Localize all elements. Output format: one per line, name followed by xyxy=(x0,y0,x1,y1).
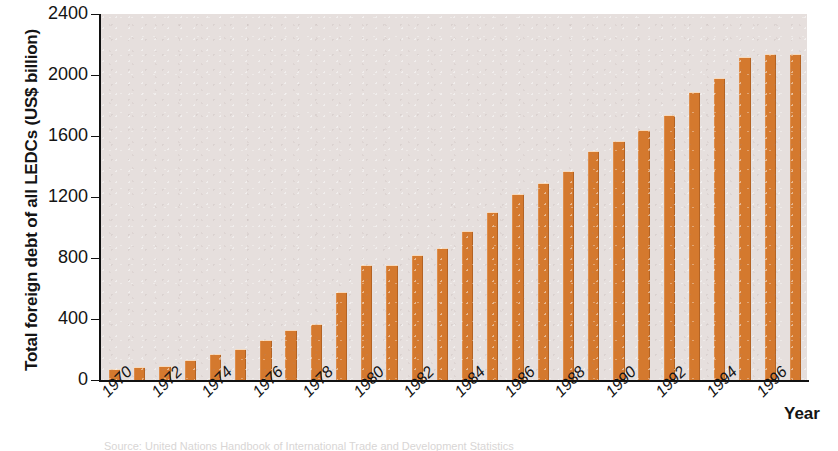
bar xyxy=(613,141,624,380)
y-axis-tick xyxy=(91,258,99,259)
bar xyxy=(563,171,574,380)
bar xyxy=(285,330,296,380)
y-axis-tick-label: 2000 xyxy=(4,64,88,85)
y-axis-tick xyxy=(91,197,99,198)
bar xyxy=(765,54,776,380)
bar xyxy=(790,54,801,380)
bar xyxy=(185,360,196,380)
bar-chart-figure: Total foreign debt of all LEDCs (US$ bil… xyxy=(0,0,838,451)
bar xyxy=(714,78,725,380)
bar xyxy=(235,349,246,380)
bar xyxy=(462,231,473,380)
bar xyxy=(386,265,397,380)
bar xyxy=(638,130,649,380)
bar xyxy=(739,57,750,380)
bar-series xyxy=(101,14,807,380)
bar xyxy=(689,92,700,380)
y-axis-tick-label: 2400 xyxy=(4,3,88,24)
bar xyxy=(487,212,498,380)
y-axis-tick-label: 1600 xyxy=(4,125,88,146)
bar xyxy=(336,292,347,380)
y-axis-tick-label: 1200 xyxy=(4,186,88,207)
bar xyxy=(512,194,523,380)
x-axis-tick-labels: 1970197219741976197819801982198419861988… xyxy=(0,382,838,442)
bar xyxy=(538,183,549,380)
bar xyxy=(664,115,675,380)
y-axis-tick xyxy=(91,136,99,137)
y-axis-tick xyxy=(91,14,99,15)
y-axis-tick-labels: 04008001200160020002400 xyxy=(0,0,88,400)
y-axis-tick-label: 800 xyxy=(4,247,88,268)
plot-area xyxy=(101,14,807,380)
y-axis-tick xyxy=(91,319,99,320)
y-axis-tick xyxy=(91,380,99,381)
bar xyxy=(437,248,448,380)
y-axis-tick xyxy=(91,75,99,76)
bar xyxy=(412,255,423,380)
bar xyxy=(134,367,145,380)
source-caption: Source: United Nations Handbook of Inter… xyxy=(104,440,514,451)
bar xyxy=(361,265,372,380)
bar xyxy=(588,151,599,380)
x-axis-title: Year xyxy=(784,404,820,424)
y-axis-tick-label: 400 xyxy=(4,308,88,329)
